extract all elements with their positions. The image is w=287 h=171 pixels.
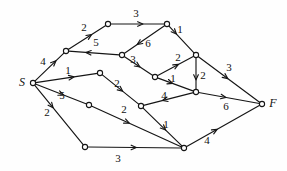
graph-edge-d-f	[124, 56, 153, 75]
graph-node-g	[97, 70, 102, 75]
edge-weight-j-m: 1	[163, 118, 169, 130]
edge-weight-S-a: 4	[40, 55, 46, 67]
graph-edge-S-a	[35, 53, 64, 81]
graph-node-d	[119, 52, 124, 57]
edge-weight-c-e: 1	[177, 23, 183, 35]
edge-weight-m-F: 4	[204, 134, 210, 146]
edge-weight-g-j: 2	[114, 77, 120, 89]
edge-weight-h-F: 6	[223, 100, 229, 112]
graph-figure: 423561322311246522134 SF	[0, 0, 287, 171]
edge-weight-k-m: 3	[115, 152, 121, 164]
graph-node-e	[193, 52, 198, 57]
graph-node-k	[82, 144, 87, 149]
terminal-label-S: S	[19, 75, 25, 89]
graph-node-S	[30, 80, 35, 85]
graph-node-j	[138, 103, 143, 108]
graph-node-f	[152, 74, 157, 79]
graph-edge-a-b	[68, 25, 106, 49]
graph-node-i	[86, 102, 91, 107]
edge-weight-i-m: 2	[121, 103, 127, 115]
edge-weight-c-d: 6	[145, 37, 151, 49]
graph-node-m	[181, 145, 186, 150]
graph-edge-h-F	[199, 92, 260, 103]
graph-node-F	[259, 101, 264, 106]
edge-weight-d-a: 5	[93, 36, 99, 48]
graph-node-c	[164, 21, 169, 26]
edge-weight-h-j: 4	[161, 89, 167, 101]
edge-weight-S-k: 2	[44, 106, 50, 118]
graph-edge-d-a	[69, 51, 120, 55]
network-graph-diagram: 423561322311246522134 SF	[0, 0, 287, 171]
graph-edge-h-j	[144, 93, 194, 106]
terminal-label-F: F	[268, 96, 277, 110]
arrowheads-layer	[48, 22, 228, 150]
edge-weight-a-b: 2	[81, 21, 87, 33]
graph-node-a	[63, 48, 68, 53]
edge-weight-f-h: 1	[170, 72, 176, 84]
edge-weight-d-f: 3	[130, 53, 136, 65]
edge-weight-e-F: 3	[226, 61, 232, 73]
edge-weight-e-h: 2	[200, 69, 206, 81]
edge-weight-S-g: 1	[65, 64, 71, 76]
graph-node-b	[105, 21, 110, 26]
edge-weight-b-c: 3	[133, 7, 139, 19]
graph-node-h	[193, 89, 198, 94]
graph-edge-g-j	[102, 75, 139, 105]
edge-weight-f-e: 2	[175, 51, 181, 63]
edge-weight-S-i: 5	[59, 89, 65, 101]
edge-weight-labels-layer: 423561322311246522134	[40, 7, 232, 164]
